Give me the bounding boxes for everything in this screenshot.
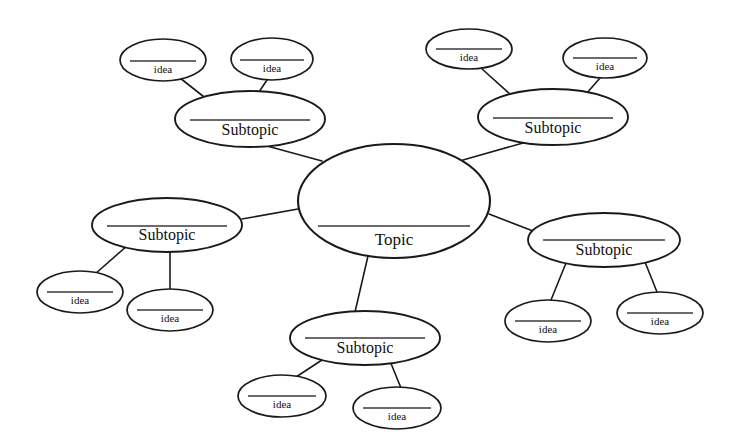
label-topic: Topic [375,230,414,249]
node-idea-bottom-left[interactable]: idea [238,375,326,417]
node-idea-right-right[interactable]: idea [617,292,703,334]
edge-topic-subtopic-top-left [267,146,322,161]
label-idea-bottom-right: idea [388,410,406,422]
label-idea-top-left-inner: idea [263,62,281,74]
label-idea-top-right-inner: idea [460,51,478,63]
label-subtopic-right: Subtopic [576,241,633,259]
label-idea-top-right-outer: idea [596,60,614,72]
edge-subtopic-top-left-idea-2 [259,80,267,92]
node-idea-top-right-outer[interactable]: idea [563,38,647,78]
label-idea-bottom-left: idea [273,398,291,410]
node-subtopic-left[interactable]: Subtopic [92,198,242,252]
node-idea-bottom-right[interactable]: idea [353,387,441,429]
node-idea-top-left-inner[interactable]: idea [231,38,313,80]
ellipse-subtopic-top-left [175,91,325,147]
mind-map-diagram: TopicSubtopicSubtopicSubtopicSubtopicSub… [0,0,734,445]
label-idea-right-right: idea [651,315,669,327]
label-subtopic-left: Subtopic [139,226,196,244]
edge-subtopic-bottom-idea-2 [390,361,401,388]
node-idea-left-right[interactable]: idea [127,289,213,331]
label-idea-top-left-outer: idea [154,63,172,75]
node-idea-top-right-inner[interactable]: idea [426,29,512,69]
label-idea-left-right: idea [161,312,179,324]
node-idea-left-lower[interactable]: idea [37,271,123,313]
label-subtopic-top-left: Subtopic [222,121,279,139]
edge-topic-subtopic-right [489,214,533,231]
edge-topic-subtopic-top-right [463,143,523,160]
label-subtopic-top-right: Subtopic [525,119,582,137]
node-subtopic-bottom[interactable]: Subtopic [290,311,440,365]
ellipse-subtopic-left [92,198,242,252]
node-topic[interactable]: Topic [298,144,490,258]
edge-subtopic-right-idea-1 [551,263,566,300]
mind-map-canvas: TopicSubtopicSubtopicSubtopicSubtopicSub… [0,0,734,445]
node-idea-top-left-outer[interactable]: idea [120,39,206,81]
edge-topic-subtopic-bottom [355,256,368,312]
node-subtopic-top-right[interactable]: Subtopic [478,89,628,145]
node-subtopic-top-left[interactable]: Subtopic [175,91,325,147]
label-idea-right-left: idea [539,323,557,335]
edge-subtopic-left-idea-1 [95,245,128,274]
edge-subtopic-bottom-idea-1 [296,358,325,377]
node-idea-right-left[interactable]: idea [505,300,591,342]
edge-topic-subtopic-left [242,209,298,219]
node-subtopic-right[interactable]: Subtopic [528,213,680,267]
label-idea-left-lower: idea [71,294,89,306]
node-layer: TopicSubtopicSubtopicSubtopicSubtopicSub… [37,29,703,429]
label-subtopic-bottom: Subtopic [337,339,394,357]
edge-subtopic-top-right-idea-1 [481,68,512,96]
edge-subtopic-right-idea-2 [645,262,657,292]
ellipse-subtopic-top-right [478,89,628,145]
